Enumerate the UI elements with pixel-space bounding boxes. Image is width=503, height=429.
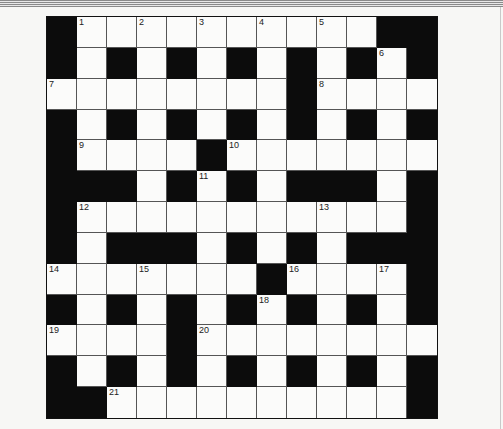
answer-square[interactable] bbox=[77, 356, 107, 387]
answer-square[interactable] bbox=[107, 264, 137, 295]
answer-square[interactable] bbox=[347, 202, 377, 233]
answer-square[interactable] bbox=[77, 233, 107, 264]
answer-square[interactable] bbox=[377, 202, 407, 233]
answer-square[interactable]: 11 bbox=[197, 171, 227, 202]
answer-square[interactable] bbox=[257, 79, 287, 110]
answer-square[interactable] bbox=[287, 325, 317, 356]
answer-square[interactable]: 19 bbox=[47, 325, 77, 356]
answer-square[interactable] bbox=[197, 387, 227, 418]
answer-square[interactable] bbox=[377, 356, 407, 387]
answer-square[interactable] bbox=[197, 233, 227, 264]
answer-square[interactable] bbox=[137, 202, 167, 233]
answer-square[interactable]: 6 bbox=[377, 48, 407, 79]
answer-square[interactable] bbox=[227, 79, 257, 110]
answer-square[interactable] bbox=[347, 79, 377, 110]
answer-square[interactable]: 7 bbox=[47, 79, 77, 110]
answer-square[interactable] bbox=[317, 140, 347, 171]
answer-square[interactable] bbox=[197, 295, 227, 326]
answer-square[interactable]: 15 bbox=[137, 264, 167, 295]
answer-square[interactable] bbox=[77, 48, 107, 79]
answer-square[interactable] bbox=[347, 387, 377, 418]
answer-square[interactable] bbox=[77, 110, 107, 141]
answer-square[interactable] bbox=[227, 387, 257, 418]
answer-square[interactable] bbox=[347, 264, 377, 295]
answer-square[interactable]: 2 bbox=[137, 17, 167, 48]
answer-square[interactable] bbox=[167, 17, 197, 48]
answer-square[interactable] bbox=[317, 48, 347, 79]
answer-square[interactable] bbox=[377, 171, 407, 202]
answer-square[interactable] bbox=[197, 202, 227, 233]
answer-square[interactable]: 12 bbox=[77, 202, 107, 233]
answer-square[interactable] bbox=[257, 325, 287, 356]
answer-square[interactable] bbox=[287, 140, 317, 171]
answer-square[interactable] bbox=[407, 79, 437, 110]
answer-square[interactable]: 3 bbox=[197, 17, 227, 48]
answer-square[interactable] bbox=[137, 48, 167, 79]
answer-square[interactable] bbox=[257, 48, 287, 79]
answer-square[interactable] bbox=[377, 110, 407, 141]
answer-square[interactable] bbox=[227, 325, 257, 356]
answer-square[interactable] bbox=[197, 356, 227, 387]
answer-square[interactable]: 16 bbox=[287, 264, 317, 295]
answer-square[interactable]: 13 bbox=[317, 202, 347, 233]
answer-square[interactable] bbox=[377, 79, 407, 110]
answer-square[interactable] bbox=[77, 79, 107, 110]
answer-square[interactable] bbox=[257, 233, 287, 264]
answer-square[interactable] bbox=[377, 387, 407, 418]
answer-square[interactable] bbox=[257, 110, 287, 141]
answer-square[interactable]: 8 bbox=[317, 79, 347, 110]
answer-square[interactable] bbox=[407, 140, 437, 171]
answer-square[interactable] bbox=[377, 295, 407, 326]
answer-square[interactable] bbox=[377, 325, 407, 356]
answer-square[interactable] bbox=[137, 295, 167, 326]
answer-square[interactable] bbox=[287, 202, 317, 233]
answer-square[interactable]: 4 bbox=[257, 17, 287, 48]
answer-square[interactable] bbox=[317, 387, 347, 418]
answer-square[interactable] bbox=[77, 295, 107, 326]
answer-square[interactable]: 21 bbox=[107, 387, 137, 418]
answer-square[interactable] bbox=[137, 387, 167, 418]
answer-square[interactable] bbox=[77, 264, 107, 295]
answer-square[interactable] bbox=[137, 110, 167, 141]
answer-square[interactable] bbox=[137, 356, 167, 387]
answer-square[interactable] bbox=[197, 48, 227, 79]
answer-square[interactable] bbox=[227, 264, 257, 295]
answer-square[interactable] bbox=[317, 325, 347, 356]
answer-square[interactable] bbox=[377, 140, 407, 171]
answer-square[interactable] bbox=[287, 17, 317, 48]
answer-square[interactable] bbox=[197, 110, 227, 141]
answer-square[interactable]: 10 bbox=[227, 140, 257, 171]
answer-square[interactable] bbox=[257, 202, 287, 233]
answer-square[interactable] bbox=[197, 264, 227, 295]
answer-square[interactable] bbox=[137, 325, 167, 356]
answer-square[interactable]: 20 bbox=[197, 325, 227, 356]
answer-square[interactable] bbox=[227, 202, 257, 233]
answer-square[interactable]: 1 bbox=[77, 17, 107, 48]
answer-square[interactable] bbox=[347, 17, 377, 48]
answer-square[interactable] bbox=[227, 17, 257, 48]
answer-square[interactable] bbox=[317, 295, 347, 326]
answer-square[interactable]: 18 bbox=[257, 295, 287, 326]
answer-square[interactable] bbox=[347, 325, 377, 356]
answer-square[interactable] bbox=[317, 110, 347, 141]
answer-square[interactable] bbox=[317, 356, 347, 387]
answer-square[interactable] bbox=[167, 79, 197, 110]
answer-square[interactable]: 17 bbox=[377, 264, 407, 295]
answer-square[interactable] bbox=[107, 17, 137, 48]
answer-square[interactable] bbox=[317, 233, 347, 264]
answer-square[interactable] bbox=[107, 140, 137, 171]
answer-square[interactable] bbox=[107, 79, 137, 110]
answer-square[interactable] bbox=[107, 202, 137, 233]
answer-square[interactable] bbox=[197, 79, 227, 110]
answer-square[interactable] bbox=[287, 387, 317, 418]
answer-square[interactable] bbox=[407, 325, 437, 356]
answer-square[interactable] bbox=[257, 140, 287, 171]
answer-square[interactable] bbox=[317, 264, 347, 295]
answer-square[interactable] bbox=[77, 325, 107, 356]
answer-square[interactable] bbox=[257, 356, 287, 387]
answer-square[interactable]: 9 bbox=[77, 140, 107, 171]
answer-square[interactable] bbox=[167, 387, 197, 418]
answer-square[interactable] bbox=[137, 171, 167, 202]
answer-square[interactable] bbox=[347, 140, 377, 171]
answer-square[interactable] bbox=[167, 264, 197, 295]
